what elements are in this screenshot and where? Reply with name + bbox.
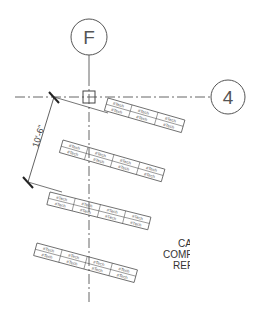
grid-label-4: 4 xyxy=(223,87,234,108)
dimension-tick-top xyxy=(49,92,59,103)
grid-bubble-f: F xyxy=(71,19,107,55)
table-1: #Tech #Tech #Tech #Tech #Tech #Tech xyxy=(104,98,184,133)
general-note: CA COMP REF xyxy=(150,238,190,271)
extension-line-top xyxy=(54,97,108,113)
grid-bubble-4: 4 xyxy=(211,80,245,114)
note-line-3: REF xyxy=(150,260,190,271)
table-3: #Tech #Tech #Tech #Tech #Tech #Tech #Tec… xyxy=(47,192,151,230)
dimension-text: 10'-6" xyxy=(30,124,46,149)
cad-drawing: F 4 10'-6" #Tech #Tech #Tech #Tech #Tech… xyxy=(0,0,260,314)
note-line-2: COMP xyxy=(150,249,190,260)
dimension-line: 10'-6" xyxy=(23,92,108,192)
dimension-tick-bottom xyxy=(23,177,33,188)
table-2: #Tech #Tech #Tech #Tech #Tech #Tech #Tec… xyxy=(59,140,164,182)
note-line-1: CA xyxy=(150,238,190,249)
grid-label-f: F xyxy=(83,27,95,48)
table-4: #Tech #Tech #Tech #Tech #Tech #Tech #Tec… xyxy=(34,243,138,282)
